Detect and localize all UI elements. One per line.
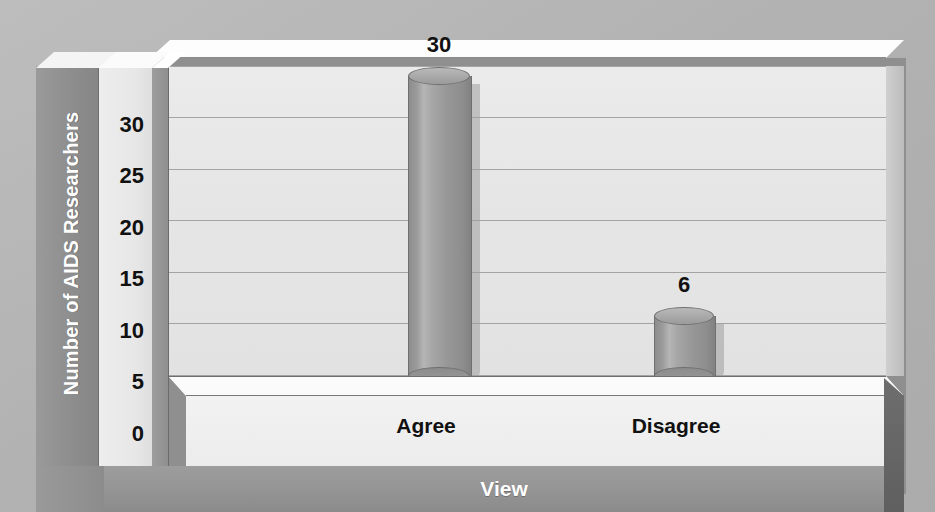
bar-agree-body [408, 76, 472, 376]
base-right-side-face [884, 378, 904, 512]
chart-screenshot: 30 6 Agree Disagree 30 25 20 15 10 5 0 [0, 0, 935, 512]
bar-disagree[interactable]: 6 [654, 316, 714, 376]
bar-agree-top-ellipse [408, 67, 470, 85]
chart-3d-assembly: 30 6 Agree Disagree 30 25 20 15 10 5 0 [36, 42, 902, 494]
x-axis-title-band: View [104, 466, 904, 512]
y-tick-5: 5 [132, 371, 144, 393]
y-tick-15: 15 [120, 268, 144, 290]
y-tick-25: 25 [120, 165, 144, 187]
category-label-agree: Agree [336, 414, 516, 438]
bar-agree-value-label: 30 [378, 32, 500, 58]
x-axis-title: View [104, 477, 904, 501]
category-label-band: Agree Disagree [186, 396, 904, 466]
category-label-disagree: Disagree [576, 414, 776, 438]
y-axis-wall [152, 66, 169, 476]
back-wall-top-edge [150, 57, 886, 58]
plot-right-wall [886, 66, 904, 376]
y-axis-title: Number of AIDS Researchers [59, 64, 84, 444]
y-tick-panel: 30 25 20 15 10 5 0 [98, 66, 152, 476]
gridline-15 [168, 220, 886, 221]
plot-floor-back-edge [168, 376, 886, 377]
gridline-10 [168, 272, 886, 273]
gridline-5 [168, 323, 886, 324]
bar-disagree-value-label: 6 [624, 272, 744, 298]
y-axis-title-panel: Number of AIDS Researchers [36, 66, 99, 476]
y-tick-30: 30 [120, 114, 144, 136]
gridline-20 [168, 169, 886, 170]
plot-back-wall [168, 66, 886, 376]
back-wall-top-bevel [150, 40, 904, 58]
base-left-panel [36, 466, 104, 512]
y-tick-0: 0 [132, 423, 144, 445]
bar-agree[interactable]: 30 [408, 76, 470, 376]
y-tick-10: 10 [120, 320, 144, 342]
gridline-25 [168, 117, 886, 118]
bar-disagree-top-ellipse [654, 307, 714, 325]
y-tick-20: 20 [120, 217, 144, 239]
plot-floor [168, 376, 904, 396]
gridline-30 [168, 66, 886, 67]
